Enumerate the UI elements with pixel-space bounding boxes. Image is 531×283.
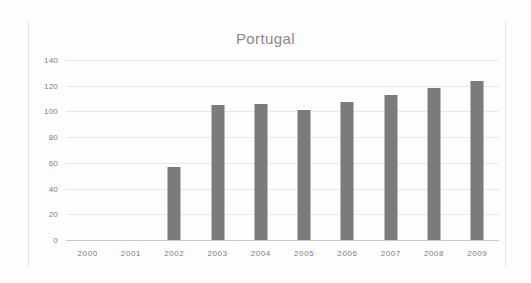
y-axis-tick-label: 40	[49, 184, 58, 193]
bar-slot: 2009	[456, 60, 499, 240]
bar-slot: 2003	[196, 60, 239, 240]
chart-frame-left-border	[28, 22, 29, 266]
chart-frame-right-border	[505, 22, 506, 266]
x-axis-tick-label: 2006	[337, 249, 357, 258]
y-axis-tick-label: 140	[44, 56, 58, 65]
x-axis-tick-label: 2009	[467, 249, 487, 258]
x-axis-tick-label: 2004	[251, 249, 271, 258]
bar-slot: 2006	[326, 60, 369, 240]
x-axis-tick-label: 2001	[121, 249, 141, 258]
y-axis-tick-label: 0	[53, 236, 58, 245]
bar-slot: 2002	[153, 60, 196, 240]
bar	[341, 102, 354, 240]
x-axis-tick-label: 2003	[207, 249, 227, 258]
y-axis-tick-label: 60	[49, 158, 58, 167]
chart-title: Portugal	[0, 30, 531, 47]
bar-slot: 2004	[239, 60, 282, 240]
gridline: 0	[66, 240, 499, 241]
y-axis-tick-label: 100	[44, 107, 58, 116]
bar	[168, 167, 181, 240]
bar	[254, 104, 267, 240]
y-axis-tick-label: 120	[44, 81, 58, 90]
bar-slot: 2007	[369, 60, 412, 240]
bar	[211, 105, 224, 240]
y-axis-tick-label: 20	[49, 210, 58, 219]
x-axis-tick-label: 2005	[294, 249, 314, 258]
plot-area: 020406080100120140 200020012002200320042…	[66, 60, 499, 240]
bar-slot: 2008	[412, 60, 455, 240]
x-axis-tick-label: 2000	[78, 249, 98, 258]
bar-slot: 2001	[109, 60, 152, 240]
bar	[428, 88, 441, 240]
bar-slot: 2005	[283, 60, 326, 240]
x-axis-tick-label: 2002	[164, 249, 184, 258]
bar	[384, 95, 397, 240]
chart-screenshot: Portugal 020406080100120140 200020012002…	[0, 0, 531, 283]
x-axis-tick-label: 2007	[381, 249, 401, 258]
bar-series: 2000200120022003200420052006200720082009	[66, 60, 499, 240]
x-axis-tick-label: 2008	[424, 249, 444, 258]
bar	[471, 81, 484, 240]
y-axis-tick-label: 80	[49, 133, 58, 142]
bar	[298, 110, 311, 240]
bar-slot: 2000	[66, 60, 109, 240]
